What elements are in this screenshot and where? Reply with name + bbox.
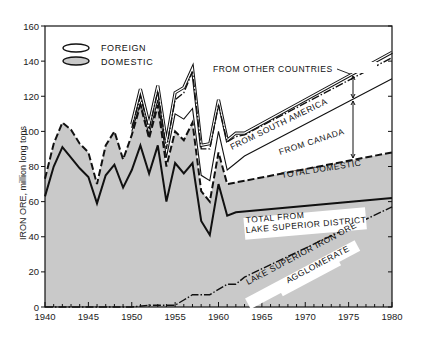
y-tick-label: 60 <box>28 196 39 207</box>
y-tick-label: 120 <box>23 91 39 102</box>
y-axis-label: IRON ORE, million long tons <box>18 125 28 240</box>
x-tick-label: 1945 <box>78 311 99 322</box>
y-tick-label: 20 <box>28 266 39 277</box>
annotation-from-canada: FROM CANADA <box>278 126 346 157</box>
legend-domestic-swatch <box>63 57 89 65</box>
x-tick-label: 1965 <box>251 311 272 322</box>
legend-domestic-label: DOMESTIC <box>101 57 153 67</box>
bracket-other-countries <box>351 76 355 98</box>
x-tick-label: 1955 <box>165 311 186 322</box>
y-tick-label: 140 <box>23 56 39 67</box>
x-tick-label: 1975 <box>338 311 359 322</box>
legend-foreign-label: FOREIGN <box>101 43 146 53</box>
y-tick-label: 160 <box>23 21 39 32</box>
y-tick-label: 40 <box>28 231 39 242</box>
x-tick-label: 1980 <box>381 311 402 322</box>
y-tick-label: 80 <box>28 161 39 172</box>
bracket-canada <box>351 101 355 158</box>
iron-ore-chart: 0204060801001201401601940194519501955196… <box>0 0 424 344</box>
x-tick-label: 1940 <box>34 311 55 322</box>
x-tick-label: 1960 <box>208 311 229 322</box>
x-tick-label: 1970 <box>295 311 316 322</box>
legend: FOREIGN DOMESTIC <box>63 43 153 67</box>
legend-foreign-swatch <box>63 44 89 52</box>
annotation-from-other-countries: FROM OTHER COUNTRIES <box>213 64 333 74</box>
x-tick-label: 1950 <box>121 311 142 322</box>
